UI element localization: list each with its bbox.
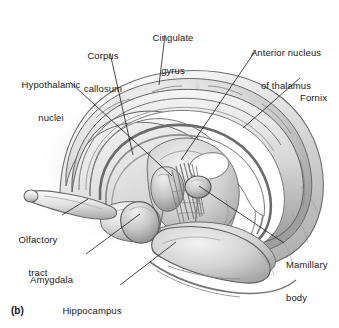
label-corpus-callosum: Corpus callosum [72,28,134,116]
olfactory-bulb-tip [24,190,38,202]
label-line-1: Anterior nucleus [238,47,334,58]
label-line-1: Cingulate [140,32,206,43]
label-mamillary-body: Mamillary body [286,237,338,325]
label-line-1: Fornix [300,92,339,103]
label-line-2: gyrus [140,65,206,76]
label-line-1: Olfactory [8,234,68,245]
label-hippocampus: Hippocampus (within dentate gyrus) [20,283,164,328]
panel-letter: (b) [11,305,24,316]
figure-limbic-system: Hypothalamic nuclei Corpus callosum Cing… [0,0,339,328]
label-cingulate-gyrus: Cingulate gyrus [140,10,206,98]
label-line-1: Corpus [72,50,134,61]
label-fornix: Fornix [300,70,339,125]
label-line-2: body [286,292,338,303]
label-line-2: callosum [72,83,134,94]
label-line-1: Mamillary [286,259,338,270]
label-line-1: Hippocampus [20,305,164,316]
